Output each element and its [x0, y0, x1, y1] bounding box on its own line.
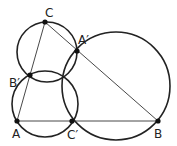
point-a-prime: [74, 48, 79, 53]
circle-b-aprime-cprime: [62, 32, 170, 140]
segment-cb: [45, 22, 158, 121]
label-b: B: [154, 127, 162, 141]
geometry-diagram: C A′ B′ A C′ B: [0, 0, 177, 146]
label-c: C: [45, 6, 53, 20]
point-c: [42, 19, 47, 24]
circle-c-aprime-bprime: [17, 22, 77, 82]
point-a: [14, 118, 19, 123]
point-b-prime: [27, 72, 32, 77]
point-c-prime: [69, 118, 74, 123]
label-b-prime: B′: [9, 76, 20, 90]
label-a: A: [12, 127, 21, 141]
point-b: [155, 118, 160, 123]
label-c-prime: C′: [67, 128, 78, 142]
label-a-prime: A′: [78, 33, 89, 47]
